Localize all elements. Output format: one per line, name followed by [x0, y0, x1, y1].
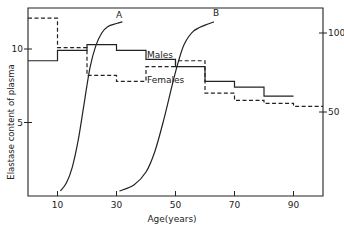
y2-tick-label: 100 — [328, 28, 344, 38]
curve-a — [60, 22, 122, 191]
plot-frame: 103050709051050100 — [12, 8, 344, 210]
plot-series — [28, 18, 323, 191]
females-label: Females — [147, 75, 185, 85]
x-axis-label: Age(years) — [147, 214, 196, 224]
curve-b-label: B — [213, 8, 219, 18]
chart: 103050709051050100 MalesFemalesAB Age(ye… — [0, 0, 344, 231]
series-females — [28, 18, 323, 106]
males-label: Males — [147, 50, 173, 60]
x-tick-label: 10 — [52, 200, 64, 210]
x-tick-label: 50 — [170, 200, 182, 210]
y2-tick-label: 50 — [328, 107, 340, 117]
curve-b — [119, 22, 213, 191]
y-axis-label: Elastase content of plasma — [6, 64, 16, 179]
y-tick-label: 10 — [12, 44, 24, 54]
x-tick-label: 90 — [288, 200, 300, 210]
x-tick-label: 30 — [111, 200, 123, 210]
curve-a-label: A — [116, 10, 123, 20]
y-tick-label: 5 — [17, 118, 23, 128]
plot-labels: MalesFemalesAB — [116, 8, 219, 85]
x-tick-label: 70 — [229, 200, 241, 210]
